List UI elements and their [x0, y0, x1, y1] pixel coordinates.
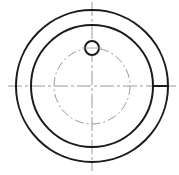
- drawing-canvas: [0, 0, 179, 175]
- technical-drawing: [0, 0, 179, 175]
